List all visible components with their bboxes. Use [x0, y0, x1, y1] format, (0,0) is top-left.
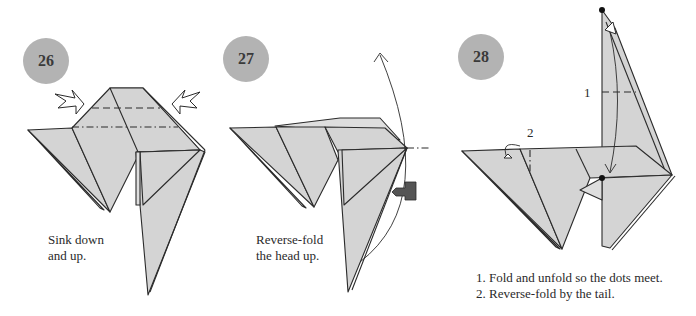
step-26: 26 Sink down and up.: [0, 0, 230, 316]
step-28-diagram: 1 2: [440, 0, 696, 316]
step-caption: Reverse-fold the head up.: [256, 232, 323, 264]
step-caption: 1. Fold and unfold so the dots meet. 2. …: [476, 270, 663, 302]
leg-edge: [136, 152, 140, 205]
step-27: 27 Reverse-fold the head up.: [220, 0, 450, 316]
caption-line: the head up.: [256, 248, 323, 264]
sink-arrow-left-icon: [55, 90, 84, 114]
caption-line: and up.: [48, 248, 104, 264]
dot-top-icon: [599, 7, 605, 13]
caption-line: 1. Fold and unfold so the dots meet.: [476, 270, 663, 286]
sink-arrow-right-icon: [172, 90, 200, 114]
step-caption: Sink down and up.: [48, 232, 104, 264]
caption-line: 2. Reverse-fold by the tail.: [476, 286, 663, 302]
caption-line: Sink down: [48, 232, 104, 248]
step-28: 28 1 2 1. Fold and unfold so the dots m: [440, 0, 696, 316]
caption-line: Reverse-fold: [256, 232, 323, 248]
callout-1: 1: [584, 85, 591, 100]
leg: [602, 175, 672, 248]
callout-2: 2: [527, 125, 534, 140]
dot-bottom-icon: [599, 175, 605, 181]
step-27-diagram: [220, 0, 450, 316]
step-26-diagram: [0, 0, 230, 316]
